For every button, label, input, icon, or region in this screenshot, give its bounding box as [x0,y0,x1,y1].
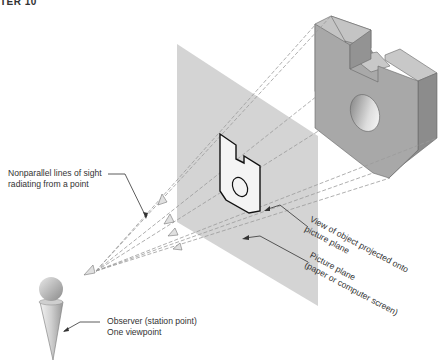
observer-figure [39,277,63,360]
label-line-1: Observer (station point) [107,316,197,327]
label-line-1: Nonparallel lines of sight [8,168,102,179]
label-line-2: radiating from a point [8,179,102,190]
label-observer: Observer (station point) One viewpoint [107,316,197,338]
label-lines-of-sight: Nonparallel lines of sight radiating fro… [8,168,102,190]
3d-object [315,16,437,178]
sight-arrow-cones [84,194,182,275]
label-line-2: One viewpoint [107,327,197,338]
